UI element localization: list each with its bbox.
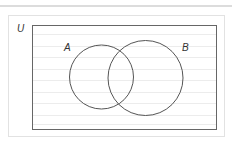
- universal-set-label: U: [17, 24, 24, 34]
- set-b-circle: [108, 41, 183, 116]
- set-a-circle: [70, 45, 134, 109]
- venn-diagram: [0, 0, 232, 144]
- set-b-label: B: [182, 43, 189, 53]
- set-a-label: A: [64, 43, 71, 53]
